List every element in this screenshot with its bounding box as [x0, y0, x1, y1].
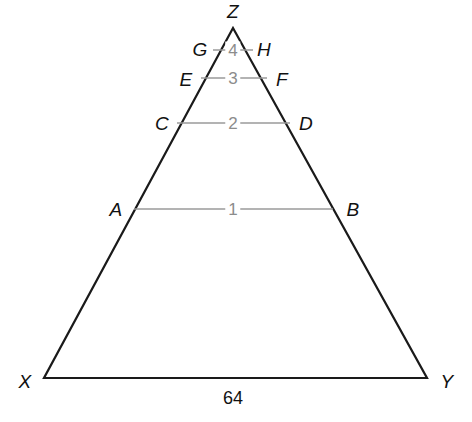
point-label-d: D [299, 114, 313, 133]
point-label-c: C [155, 114, 169, 133]
vertex-label-z: Z [227, 2, 239, 21]
segment-number-3: 3 [225, 70, 240, 87]
segment-number-4: 4 [225, 42, 240, 59]
point-label-f: F [276, 70, 288, 89]
point-label-g: G [193, 40, 208, 59]
base-measure-label: 64 [223, 389, 243, 407]
segment-number-1: 1 [225, 201, 240, 218]
point-label-a: A [110, 200, 123, 219]
point-label-e: E [180, 70, 193, 89]
segment-number-2: 2 [225, 115, 240, 132]
geometry-figure: ZXYGH4EF3CD2AB164 [0, 0, 472, 422]
vertex-label-y: Y [441, 372, 454, 391]
point-label-h: H [257, 40, 271, 59]
point-label-b: B [347, 200, 360, 219]
vertex-label-x: X [19, 372, 32, 391]
